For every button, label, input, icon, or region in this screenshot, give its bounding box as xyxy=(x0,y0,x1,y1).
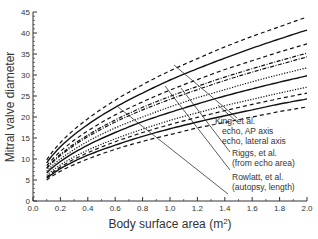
x-tick-label: 0.6 xyxy=(110,204,122,213)
x-tick-label: 1.8 xyxy=(274,204,286,213)
x-tick-label: 1.6 xyxy=(247,204,259,213)
annotations: King, et al.echo, AP axisecho, lateral a… xyxy=(215,116,295,192)
chart-canvas: 051015202530354045 0.00.20.40.60.81.01.2… xyxy=(0,0,318,239)
y-tick-label: 10 xyxy=(21,155,30,164)
x-tick-label: 1.4 xyxy=(219,204,231,213)
y-tick-label: 20 xyxy=(21,113,30,122)
y-tick-label: 15 xyxy=(21,134,30,143)
annotation-text: Rowlatt, et al. xyxy=(232,172,284,182)
x-tick-label: 1.0 xyxy=(164,204,176,213)
annotation-text: echo, AP axis xyxy=(222,126,273,136)
x-tick-label: 0.4 xyxy=(82,204,94,213)
annotation-text: King, et al. xyxy=(215,116,255,126)
y-tick-label: 45 xyxy=(21,8,30,17)
y-tick-label: 30 xyxy=(21,71,30,80)
mitral-valve-chart: 051015202530354045 0.00.20.40.60.81.01.2… xyxy=(0,0,318,239)
annotation-text: echo, lateral axis xyxy=(222,136,286,146)
annotation-text: Riggs, et al. xyxy=(232,148,277,158)
y-tick-label: 5 xyxy=(26,176,31,185)
annotation-text: (from echo area) xyxy=(232,158,295,168)
y-ticks: 051015202530354045 xyxy=(21,8,37,206)
x-tick-label: 1.2 xyxy=(192,204,204,213)
leader-lines xyxy=(118,65,237,194)
x-tick-label: 0.0 xyxy=(27,204,39,213)
y-tick-label: 40 xyxy=(21,29,30,38)
annotation-text: (autopsy, length) xyxy=(232,182,295,192)
y-axis-label: Mitral valve diameter xyxy=(3,52,17,163)
y-tick-label: 35 xyxy=(21,50,30,59)
x-ticks: 0.00.20.40.60.81.01.21.41.61.82.0 xyxy=(27,197,313,213)
x-axis-label: Body surface area (m2) xyxy=(108,217,231,231)
x-tick-label: 0.8 xyxy=(137,204,149,213)
x-tick-label: 0.2 xyxy=(55,204,67,213)
y-tick-label: 25 xyxy=(21,92,30,101)
x-tick-label: 2.0 xyxy=(301,204,313,213)
